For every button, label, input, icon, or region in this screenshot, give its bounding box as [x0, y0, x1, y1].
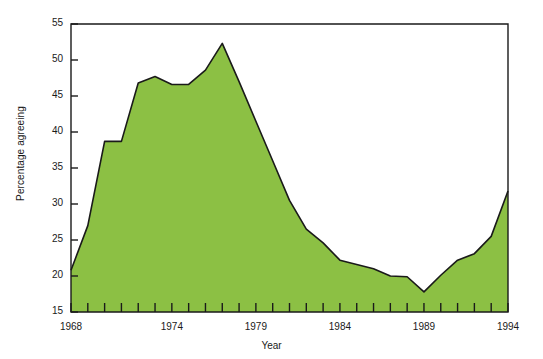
y-tick-label: 50 — [33, 53, 63, 64]
x-tick-label: 1989 — [399, 321, 449, 332]
y-tick-label: 35 — [33, 161, 63, 172]
x-tick-label: 1994 — [483, 321, 533, 332]
x-tick-label: 1968 — [46, 321, 96, 332]
y-tick-label: 15 — [33, 305, 63, 316]
y-tick-label: 45 — [33, 89, 63, 100]
x-tick-label: 1979 — [231, 321, 281, 332]
y-tick-label: 55 — [33, 17, 63, 28]
x-axis-title: Year — [0, 340, 543, 351]
plot-area — [0, 0, 543, 359]
y-tick-label: 25 — [33, 233, 63, 244]
x-tick-label: 1974 — [147, 321, 197, 332]
area-chart: Percentage agreeing Year 152025303540455… — [0, 0, 543, 359]
y-tick-label: 40 — [33, 125, 63, 136]
y-tick-label: 30 — [33, 197, 63, 208]
y-tick-label: 20 — [33, 269, 63, 280]
data-series-group — [71, 43, 508, 312]
x-tick-label: 1984 — [315, 321, 365, 332]
y-axis-title: Percentage agreeing — [15, 74, 26, 234]
area-fill — [71, 43, 508, 312]
